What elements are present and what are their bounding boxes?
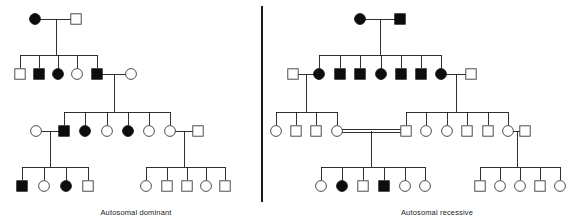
caption-autosomal-dominant: Autosomal dominant: [100, 208, 172, 217]
individual-AR-III-4-female-unaffected[interactable]: [332, 126, 343, 137]
individual-AD-IV-3-female-affected[interactable]: [61, 181, 72, 192]
individual-AR-I-1-female-affected[interactable]: [355, 14, 366, 25]
individual-AD-IV-9-male-unaffected[interactable]: [220, 181, 230, 191]
individual-AR-I-2-male-affected[interactable]: [395, 14, 405, 24]
individual-AR-IV-11-female-unaffected[interactable]: [555, 181, 566, 192]
individual-AR-IV-5-female-unaffected[interactable]: [400, 181, 411, 192]
individual-AD-III-1-female-unaffected[interactable]: [31, 126, 42, 137]
caption-autosomal-recessive: Autosomal recessive: [401, 208, 473, 217]
individual-AD-II-5-male-affected[interactable]: [92, 69, 102, 79]
individual-AR-III-9-male-unaffected[interactable]: [483, 126, 493, 136]
individual-AD-I-2-male-unaffected[interactable]: [71, 14, 81, 24]
individual-AD-III-3-female-affected[interactable]: [80, 126, 91, 137]
individual-AR-III-10-female-unaffected[interactable]: [503, 126, 514, 137]
individual-AR-II-2-male-affected[interactable]: [335, 69, 345, 79]
individual-AR-IV-1-female-unaffected[interactable]: [316, 181, 327, 192]
individual-AR-II-4-female-affected[interactable]: [376, 69, 387, 80]
individual-AR-III-5-male-unaffected[interactable]: [401, 126, 411, 136]
individual-AD-II-4-female-unaffected[interactable]: [72, 69, 83, 80]
individual-AR-II-8-male-unaffected[interactable]: [466, 69, 476, 79]
individual-AR-III-7-female-unaffected[interactable]: [442, 126, 453, 137]
individual-AD-III-5-female-affected[interactable]: [123, 126, 134, 137]
individual-AD-II-6-female-unaffected[interactable]: [126, 69, 137, 80]
individual-AR-III-2-male-unaffected[interactable]: [291, 126, 301, 136]
individual-AR-IV-2-female-affected[interactable]: [337, 181, 348, 192]
individual-AR-IV-7-male-unaffected[interactable]: [475, 181, 485, 191]
individual-AD-IV-7-male-unaffected[interactable]: [182, 181, 192, 191]
individual-AR-IV-3-male-unaffected[interactable]: [358, 181, 368, 191]
individual-AD-II-3-female-affected[interactable]: [53, 69, 64, 80]
individual-AR-III-3-male-unaffected[interactable]: [311, 126, 321, 136]
individual-AD-IV-4-male-unaffected[interactable]: [83, 181, 93, 191]
individual-AD-II-2-male-affected[interactable]: [34, 69, 44, 79]
individual-AD-III-6-female-unaffected[interactable]: [144, 126, 155, 137]
individual-AD-IV-5-female-unaffected[interactable]: [141, 181, 152, 192]
individual-AR-II-5-male-affected[interactable]: [396, 69, 406, 79]
individual-AR-III-11-male-unaffected[interactable]: [520, 126, 530, 136]
individual-AD-I-1-female-affected[interactable]: [30, 14, 41, 25]
individual-AD-III-2-male-affected[interactable]: [59, 126, 69, 136]
individual-AR-II-1-female-affected[interactable]: [314, 69, 325, 80]
individual-AR-II-0-male-unaffected[interactable]: [288, 69, 298, 79]
individual-AR-II-6-male-affected[interactable]: [416, 69, 426, 79]
individual-AR-IV-10-male-unaffected[interactable]: [535, 181, 545, 191]
pedigree-chart-figure: Autosomal dominant Autosomal recessive: [0, 0, 574, 223]
individual-AD-IV-1-male-affected[interactable]: [17, 181, 27, 191]
individual-AR-III-8-male-unaffected[interactable]: [462, 126, 472, 136]
individual-AR-IV-8-female-unaffected[interactable]: [495, 181, 506, 192]
individual-AR-IV-4-male-affected[interactable]: [379, 181, 389, 191]
individual-AR-II-7-female-affected[interactable]: [436, 69, 447, 80]
individual-AD-III-7-female-unaffected[interactable]: [165, 126, 176, 137]
individual-AR-IV-6-female-unaffected[interactable]: [420, 181, 431, 192]
individual-AD-III-4-female-unaffected[interactable]: [102, 126, 113, 137]
individual-AD-IV-6-male-unaffected[interactable]: [162, 181, 172, 191]
individual-AD-III-8-male-unaffected[interactable]: [193, 126, 203, 136]
individual-AD-IV-2-female-unaffected[interactable]: [39, 181, 50, 192]
individual-AD-II-1-male-unaffected[interactable]: [15, 69, 25, 79]
individual-AR-III-6-female-unaffected[interactable]: [421, 126, 432, 137]
individual-AR-IV-9-female-unaffected[interactable]: [515, 181, 526, 192]
individual-AR-III-1-female-unaffected[interactable]: [271, 126, 282, 137]
individual-AD-IV-8-female-unaffected[interactable]: [201, 181, 212, 192]
individual-AR-II-3-male-affected[interactable]: [355, 69, 365, 79]
